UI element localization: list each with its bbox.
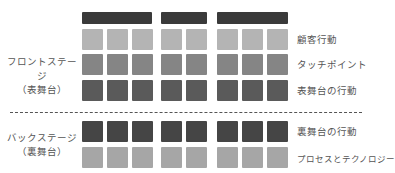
grid-cell xyxy=(242,29,263,50)
grid-cell xyxy=(267,80,288,101)
grid-cell xyxy=(267,54,288,75)
grid-cell xyxy=(242,147,263,168)
grid-cell xyxy=(132,121,153,142)
grid-cell xyxy=(242,80,263,101)
grid-cell xyxy=(132,29,153,50)
grid-cell xyxy=(107,80,128,101)
grid-cell xyxy=(82,54,103,75)
frontstage-title: フロントステージ xyxy=(4,55,80,83)
grid-cell xyxy=(186,54,207,75)
line-of-visibility xyxy=(10,112,362,113)
grid-cell xyxy=(82,80,103,101)
grid-cell xyxy=(107,54,128,75)
phase-bar-2 xyxy=(161,12,207,24)
row-label-process-technology: プロセスとテクノロジー xyxy=(297,153,395,165)
frontstage-subtitle: （表舞台） xyxy=(4,83,80,97)
grid-cell xyxy=(82,147,103,168)
grid-cell xyxy=(161,54,182,75)
grid-cell xyxy=(132,147,153,168)
grid-cell xyxy=(132,54,153,75)
grid-cell xyxy=(267,29,288,50)
grid-cell xyxy=(186,29,207,50)
grid-cell xyxy=(161,29,182,50)
row-label-backstage-actions: 裏舞台の行動 xyxy=(297,126,357,138)
grid-cell xyxy=(217,147,238,168)
grid-cell xyxy=(107,121,128,142)
grid-cell xyxy=(217,121,238,142)
grid-cell xyxy=(186,147,207,168)
phase-bar-3 xyxy=(217,12,288,24)
backstage-label: バックステージ （裏舞台） xyxy=(4,131,80,159)
grid-cell xyxy=(242,54,263,75)
backstage-title: バックステージ xyxy=(4,131,80,145)
grid-cell xyxy=(217,80,238,101)
row-label-frontstage-actions: 表舞台の行動 xyxy=(297,85,357,97)
row-label-customer-actions: 顧客行動 xyxy=(297,34,337,46)
grid-cell xyxy=(82,29,103,50)
grid-cell xyxy=(132,80,153,101)
phase-bar-1 xyxy=(82,12,152,24)
grid-cell xyxy=(161,80,182,101)
grid-cell xyxy=(217,29,238,50)
backstage-subtitle: （裏舞台） xyxy=(4,145,80,159)
grid-cell xyxy=(186,121,207,142)
grid-cell xyxy=(267,121,288,142)
grid-cell xyxy=(161,147,182,168)
grid-cell xyxy=(186,80,207,101)
grid-cell xyxy=(107,147,128,168)
row-label-touchpoints: タッチポイント xyxy=(297,59,367,71)
grid-cell xyxy=(161,121,182,142)
grid-cell xyxy=(82,121,103,142)
grid-cell xyxy=(267,147,288,168)
grid-cell xyxy=(107,29,128,50)
grid-cell xyxy=(242,121,263,142)
grid-cell xyxy=(217,54,238,75)
frontstage-label: フロントステージ （表舞台） xyxy=(4,55,80,97)
